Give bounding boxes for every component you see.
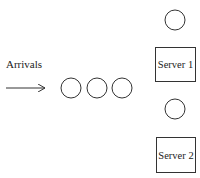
server-2-customer: [165, 99, 185, 119]
queue: [61, 78, 132, 98]
server-1: Server 1: [156, 10, 196, 82]
queue-customer-3: [112, 78, 132, 98]
server-2-label: Server 2: [158, 150, 193, 161]
queueing-diagram: Arrivals Server 1 Server 2: [0, 0, 200, 178]
server-1-customer: [165, 10, 185, 30]
server-1-label: Server 1: [158, 59, 193, 70]
queue-customer-2: [87, 78, 107, 98]
queue-customer-1: [61, 78, 81, 98]
server-2: Server 2: [157, 99, 196, 173]
arrivals-label: Arrivals: [6, 58, 42, 70]
